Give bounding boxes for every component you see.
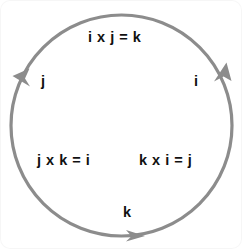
- cycle-circle: [11, 15, 232, 236]
- top-equation-label: i x j = k: [88, 30, 141, 45]
- left-unit-label: j: [41, 74, 46, 89]
- right-unit-label: i: [194, 74, 199, 89]
- bottom-right-equation-label: k x i = j: [139, 153, 192, 168]
- bottom-unit-label: k: [123, 205, 132, 220]
- arrowhead-left-icon: [13, 69, 31, 87]
- diagram-canvas: i x j = k j i j x k = i k x i = j k: [0, 0, 242, 249]
- bottom-left-equation-label: j x k = i: [37, 153, 90, 168]
